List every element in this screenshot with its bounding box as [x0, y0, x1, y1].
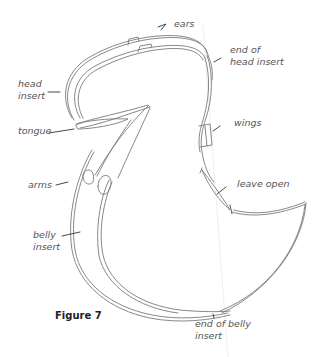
tail-top-2	[234, 202, 305, 213]
tongue-leader	[49, 129, 74, 133]
arms-leader	[56, 182, 68, 185]
tail-bottom	[222, 203, 306, 313]
tail-bottom-2	[220, 205, 305, 311]
label-leave-open: leave open	[237, 178, 290, 190]
back-line-2	[199, 58, 209, 152]
leave-open-tick-top	[200, 168, 202, 173]
label-end-of-belly-insert: end of belly insert	[195, 318, 251, 342]
end-of-head-insert-leader	[214, 58, 221, 62]
guide-line	[203, 25, 228, 357]
belly-outline-inner-2	[98, 180, 178, 313]
label-tongue: tongue	[18, 125, 51, 137]
figure-caption: Figure 7	[55, 310, 102, 321]
belly-outline-inner	[101, 182, 230, 312]
label-end-of-head-insert: end of head insert	[230, 44, 284, 68]
leave-open-tick	[230, 205, 232, 214]
wings-leader	[213, 126, 220, 131]
label-wings: wings	[234, 117, 261, 129]
label-head-insert: head insert	[18, 78, 45, 102]
label-belly-insert: belly insert	[33, 229, 60, 253]
leave-open-shape	[202, 170, 230, 210]
leave-open-leader	[217, 187, 226, 194]
label-arms: arms	[28, 179, 52, 191]
wings-tab-inner	[205, 126, 207, 146]
neck-line-2	[97, 120, 131, 176]
label-ears: ears	[174, 18, 195, 30]
ears-arrow	[158, 24, 166, 30]
head-outline-outer-2	[65, 36, 207, 118]
